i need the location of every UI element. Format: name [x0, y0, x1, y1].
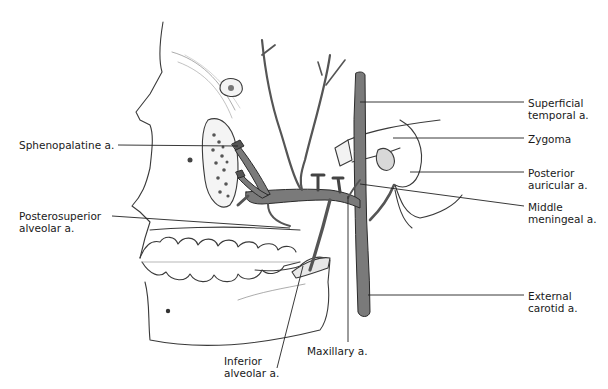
label-external-carotid-artery: External carotid a. [528, 290, 578, 314]
label-zygoma: Zygoma [528, 133, 571, 145]
label-inferior-alveolar-artery: Inferior alveolar a. [224, 355, 279, 379]
label-line: Middle [528, 201, 597, 213]
label-middle-meningeal-artery: Middle meningeal a. [528, 201, 597, 225]
label-line: Posterosuperior [19, 210, 101, 222]
label-sphenopalatine-artery: Sphenopalatine a. [19, 139, 114, 151]
label-posterior-auricular-artery: Posterior auricular a. [528, 167, 588, 191]
artery-tree [232, 40, 394, 317]
label-line: Posterior [528, 167, 588, 179]
label-line: Superficial [528, 97, 589, 109]
leader-lines [112, 102, 524, 368]
label-line: meningeal a. [528, 213, 597, 225]
label-line: Maxillary a. [307, 345, 368, 357]
label-line: Inferior [224, 355, 279, 367]
label-line: carotid a. [528, 302, 578, 314]
label-line: alveolar a. [224, 367, 279, 379]
label-line: alveolar a. [19, 222, 101, 234]
label-line: External [528, 290, 578, 302]
label-line: auricular a. [528, 179, 588, 191]
leader-inferior-alveolar [277, 266, 303, 368]
anatomical-illustration [0, 0, 608, 389]
label-superficial-temporal-artery: Superficial temporal a. [528, 97, 589, 121]
label-line: temporal a. [528, 109, 589, 121]
label-line: Sphenopalatine a. [19, 139, 114, 151]
label-posterosuperior-alveolar-artery: Posterosuperior alveolar a. [19, 210, 101, 234]
label-maxillary-artery: Maxillary a. [307, 345, 368, 357]
leader-posterosuperior-alveolar [112, 216, 290, 228]
external-carotid-artery [354, 72, 370, 317]
label-line: Zygoma [528, 133, 571, 145]
